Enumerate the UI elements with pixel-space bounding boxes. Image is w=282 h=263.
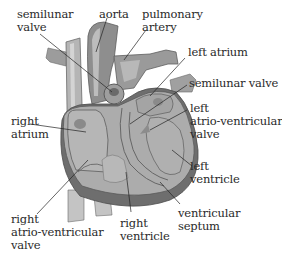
right-atrium-shading: [74, 119, 86, 129]
label-semilunar-valve-right: semilunar valve: [189, 77, 278, 90]
label-ventricular-septum: ventricular septum: [178, 207, 240, 233]
vessel-branch-left: [46, 48, 66, 66]
label-aorta: aorta: [99, 8, 129, 21]
label-left-ventricle: left ventricle: [190, 160, 240, 186]
label-left-av-valve: left atrio-ventricular valve: [190, 102, 282, 141]
label-right-ventricle: right ventricle: [120, 217, 170, 243]
label-left-atrium: left atrium: [188, 46, 248, 59]
right-atrium-chamber: [68, 110, 108, 172]
label-semilunar-valve-left: semilunar valve: [17, 8, 73, 34]
left-atrium-chamber: [136, 94, 173, 116]
label-right-atrium: right atrium: [11, 115, 49, 141]
label-pulmonary-artery: pulmonary artery: [142, 8, 203, 34]
pulmonary-artery-vessel: [114, 50, 178, 90]
label-right-av-valve: right atrio-ventricular valve: [11, 213, 103, 252]
